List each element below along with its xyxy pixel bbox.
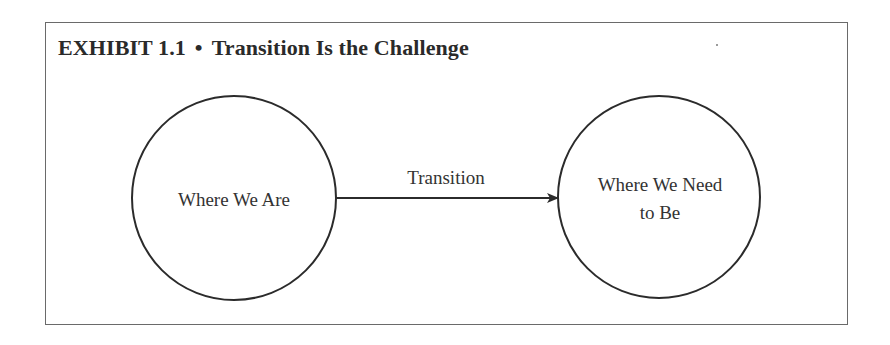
target-state-line1: Where We Need [560,171,760,199]
transition-text: Transition [407,167,484,188]
target-state-label: Where We Need to Be [560,171,760,227]
current-state-text: Where We Are [178,189,290,210]
current-state-label: Where We Are [134,186,334,214]
transition-label: Transition [386,166,506,190]
target-state-line2: to Be [560,199,760,227]
scan-speck [716,44,718,46]
